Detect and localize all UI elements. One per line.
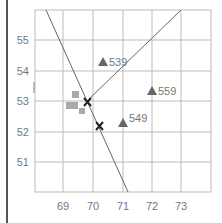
x-tick: 70 <box>87 200 99 212</box>
point-labels: 539 559 549 <box>109 56 176 124</box>
square-marker <box>72 102 78 109</box>
y-tick: 55 <box>17 34 29 46</box>
cross-marker <box>84 98 91 106</box>
square-markers <box>66 91 85 114</box>
triangle-marker <box>147 86 157 95</box>
point-label: 559 <box>158 85 176 97</box>
y-tick: 54 <box>17 65 29 77</box>
y-tick-labels: 55 54 53 52 51 <box>17 34 29 168</box>
y-tick: 52 <box>17 126 29 138</box>
x-tick-labels: 69 70 71 72 73 <box>57 200 187 212</box>
y-tick: 53 <box>17 95 29 107</box>
triangle-marker <box>118 118 128 127</box>
x-tick: 73 <box>175 200 187 212</box>
x-tick: 72 <box>146 200 158 212</box>
square-marker <box>79 108 85 114</box>
x-tick: 69 <box>57 200 69 212</box>
scatter-chart: 55 54 53 52 51 69 70 71 72 73 539 559 54… <box>0 0 222 223</box>
point-label: 539 <box>109 56 127 68</box>
triangle-markers <box>98 57 157 127</box>
triangle-marker <box>98 57 108 66</box>
square-marker <box>72 91 79 98</box>
square-marker <box>66 102 73 109</box>
x-tick: 71 <box>117 200 129 212</box>
point-label: 549 <box>129 112 147 124</box>
grid <box>35 10 211 192</box>
y-tick: 51 <box>17 156 29 168</box>
